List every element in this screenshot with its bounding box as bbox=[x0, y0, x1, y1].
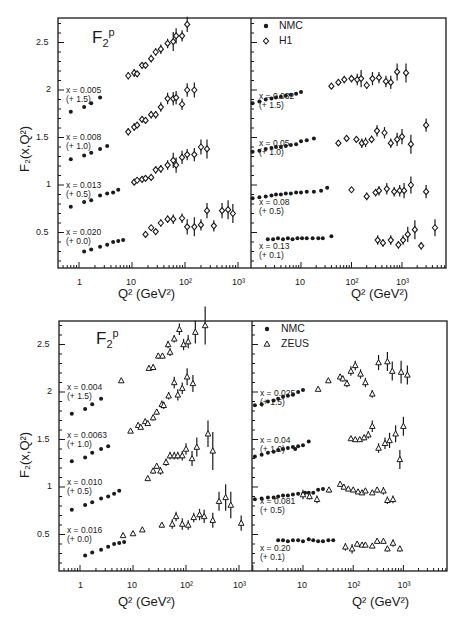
x-axis-title-bottom-right: Q² (GeV²) bbox=[352, 594, 409, 609]
x-tick-label: 10² bbox=[180, 580, 193, 590]
x-tick-label: 10³ bbox=[233, 580, 246, 590]
legend-nmc-bottom: NMC bbox=[281, 322, 305, 334]
bin-label-offset: (+ 1.0) bbox=[260, 445, 285, 454]
x-tick-label: 10³ bbox=[397, 580, 410, 590]
x-tick-label: 10 bbox=[297, 580, 307, 590]
bin-label-offset: (+ 0.5) bbox=[66, 190, 91, 199]
legend-zeus-bottom: ZEUS bbox=[281, 337, 309, 349]
y-tick-label: 0.5 bbox=[36, 227, 49, 237]
x-tick-label: 10 bbox=[126, 277, 136, 287]
bin-label-offset: (+ 1.5) bbox=[259, 101, 284, 110]
y-tick-label: 0.5 bbox=[37, 529, 50, 539]
bin-label-offset: (+ 0.5) bbox=[259, 207, 284, 216]
y-axis-title-top: F₂(x,Q²) bbox=[17, 126, 32, 172]
y-tick-label: 2.5 bbox=[37, 339, 50, 349]
bin-label-offset: (+ 1.5) bbox=[66, 95, 91, 104]
x-axis-title-top-right: Q² (GeV²) bbox=[351, 286, 408, 301]
y-tick-label: 1 bbox=[47, 481, 52, 491]
x-tick-label: 10² bbox=[179, 277, 192, 287]
x-tick-label: 10³ bbox=[396, 277, 409, 287]
x-tick-label: 1 bbox=[77, 277, 82, 287]
x-tick-label: 1 bbox=[78, 580, 83, 590]
y-axis-title-bottom: F₂(x,Q²) bbox=[17, 432, 32, 478]
y-tick-label: 2.5 bbox=[36, 37, 49, 47]
y-tick-label: 1.5 bbox=[36, 132, 49, 142]
x-tick-label: 10² bbox=[347, 580, 360, 590]
bin-label-offset: (+ 1.0) bbox=[67, 440, 92, 449]
bin-label-offset: (+ 0.0) bbox=[67, 535, 92, 544]
y-tick-label: 2 bbox=[47, 386, 52, 396]
legend-h1-top: H1 bbox=[279, 34, 292, 46]
x-tick-label: 10 bbox=[127, 580, 137, 590]
panel-title-bottom: F2p bbox=[96, 327, 119, 350]
bin-label-offset: (+ 1.0) bbox=[66, 142, 91, 151]
x-tick-label: 10² bbox=[346, 277, 359, 287]
bin-label-offset: (+ 0.1) bbox=[259, 251, 284, 260]
x-tick-label: 10 bbox=[295, 277, 305, 287]
bin-label-offset: (+ 0.0) bbox=[66, 237, 91, 246]
bin-label-offset: (+ 0.5) bbox=[260, 506, 285, 515]
x-tick-label: 10³ bbox=[232, 277, 245, 287]
bin-label-offset: (+ 0.1) bbox=[260, 553, 285, 562]
bin-label-offset: (+ 1.0) bbox=[259, 148, 284, 157]
panel-title-top: F2p bbox=[92, 26, 115, 49]
y-tick-label: 1.5 bbox=[37, 434, 50, 444]
legend-nmc-top: NMC bbox=[279, 19, 303, 31]
bin-label-offset: (+ 1.5) bbox=[260, 398, 285, 407]
x-axis-title-bottom-left: Q² (GeV²) bbox=[118, 594, 175, 609]
bin-label-offset: (+ 0.5) bbox=[67, 487, 92, 496]
y-tick-label: 1 bbox=[46, 179, 51, 189]
x-axis-title-top-left: Q² (GeV²) bbox=[118, 286, 175, 301]
y-tick-label: 2 bbox=[46, 84, 51, 94]
bin-label-offset: (+ 1.5) bbox=[67, 392, 92, 401]
